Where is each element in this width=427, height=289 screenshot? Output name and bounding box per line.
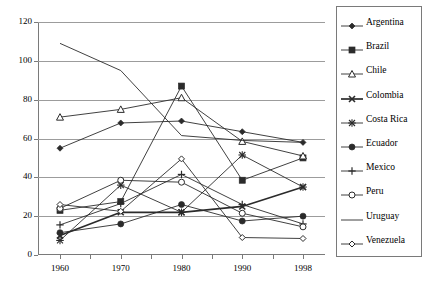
legend-item-argentina[interactable]: Argentina [339, 17, 421, 27]
legend-marker-filled-circle-icon [339, 138, 365, 148]
y-tick-label: 100 [0, 56, 32, 65]
legend-item-colombia[interactable]: Colombia [339, 90, 421, 100]
series-layer [38, 22, 325, 255]
data-point-open-circle [300, 224, 306, 230]
chart-container: 020406080100120 19601970198019901998 Arg… [0, 0, 427, 289]
data-point-open-triangle [239, 138, 246, 145]
y-tick-label: 20 [0, 211, 32, 220]
data-point-filled-circle [349, 144, 355, 150]
data-point-filled-diamond [57, 145, 63, 151]
x-tick-mark-minor [151, 255, 152, 259]
x-tick-label: 1980 [162, 264, 202, 273]
legend-item-mexico[interactable]: Mexico [339, 162, 421, 172]
legend-marker-open-triangle-icon [339, 65, 365, 75]
data-point-asterisk [178, 208, 186, 216]
x-tick-mark [182, 255, 183, 259]
legend-marker-filled-diamond-icon [339, 17, 365, 27]
data-point-filled-diamond [239, 129, 245, 135]
chart-legend: ArgentinaBrazilChileColombiaCosta RicaEc… [336, 6, 422, 257]
legend-label: Colombia [365, 90, 403, 100]
data-point-filled-square [349, 47, 355, 53]
legend-item-ecuador[interactable]: Ecuador [339, 138, 421, 148]
legend-label: Argentina [365, 17, 404, 27]
y-tick-label: 120 [0, 17, 32, 26]
data-point-filled-circle [300, 213, 306, 219]
data-point-filled-diamond [179, 118, 185, 124]
data-point-filled-square [179, 83, 185, 89]
legend-marker-bold-cross-icon [339, 90, 365, 100]
data-point-plus [56, 221, 63, 228]
x-tick-label: 1970 [101, 264, 141, 273]
data-point-filled-circle [239, 218, 245, 224]
legend-marker-filled-square-icon [339, 41, 365, 51]
y-tick-label: 60 [0, 134, 32, 143]
data-point-open-circle [239, 210, 245, 216]
legend-marker-asterisk-icon [339, 114, 365, 124]
data-point-plus [348, 167, 355, 174]
data-point-open-diamond [349, 241, 355, 247]
x-tick-mark [60, 255, 61, 259]
legend-marker-open-diamond-icon [339, 235, 365, 245]
legend-marker-open-circle-icon [339, 186, 365, 196]
x-tick-mark-minor [273, 255, 274, 259]
x-tick-label: 1960 [40, 264, 80, 273]
legend-item-peru[interactable]: Peru [339, 186, 421, 196]
legend-label: Ecuador [365, 138, 398, 148]
legend-label: Peru [365, 186, 383, 196]
series-argentina [57, 118, 306, 151]
x-tick-mark [242, 255, 243, 259]
x-tick-mark-minor [212, 255, 213, 259]
data-point-asterisk [299, 183, 307, 191]
data-point-filled-diamond [349, 23, 355, 29]
legend-item-uruguay[interactable]: Uruguay [339, 211, 421, 221]
data-point-asterisk [348, 119, 356, 127]
x-tick-mark [303, 255, 304, 259]
legend-item-chile[interactable]: Chile [339, 65, 421, 75]
legend-item-venezuela[interactable]: Venezuela [339, 235, 421, 245]
data-point-open-circle [349, 192, 355, 198]
y-tick-label: 0 [0, 250, 32, 259]
data-point-filled-diamond [118, 120, 124, 126]
y-tick-label: 80 [0, 95, 32, 104]
data-point-asterisk [238, 151, 246, 159]
data-point-filled-circle [118, 221, 124, 227]
data-point-filled-circle [179, 202, 185, 208]
x-tick-mark [121, 255, 122, 259]
series-brazil [57, 83, 306, 213]
legend-item-brazil[interactable]: Brazil [339, 41, 421, 51]
x-tick-label: 1998 [283, 264, 323, 273]
y-tick-label: 40 [0, 172, 32, 181]
x-tick-mark-minor [90, 255, 91, 259]
legend-label: Mexico [365, 162, 395, 172]
data-point-filled-circle [57, 230, 63, 236]
series-ecuador [57, 202, 306, 236]
legend-item-costa-rica[interactable]: Costa Rica [339, 114, 421, 124]
series-chile [57, 94, 307, 159]
legend-label: Venezuela [365, 235, 405, 245]
data-point-open-diamond [300, 235, 306, 241]
legend-label: Uruguay [365, 211, 399, 221]
data-point-plus [178, 171, 185, 178]
data-point-filled-square [239, 177, 245, 183]
data-point-asterisk [56, 237, 64, 245]
data-point-open-triangle [178, 94, 185, 101]
legend-marker-none-icon [339, 211, 365, 221]
x-tick-label: 1990 [222, 264, 262, 273]
data-point-open-circle [118, 177, 124, 183]
series-uruguay [60, 43, 303, 142]
legend-marker-plus-icon [339, 162, 365, 172]
data-point-open-circle [179, 179, 185, 185]
legend-label: Chile [365, 65, 387, 75]
y-tick-mark [34, 255, 38, 256]
legend-label: Costa Rica [365, 114, 407, 124]
legend-label: Brazil [365, 41, 389, 51]
